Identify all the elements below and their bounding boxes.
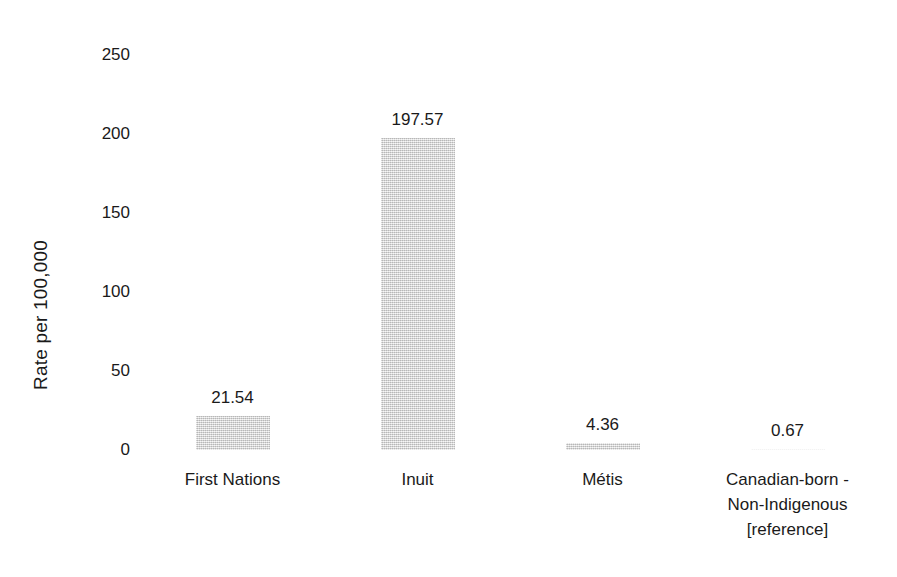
bar-group: 197.57Inuit <box>325 0 510 577</box>
x-axis-category-label-line: First Nations <box>128 467 338 492</box>
plot-area: 21.54First Nations197.57Inuit4.36Métis0.… <box>140 0 880 577</box>
bar-group: 4.36Métis <box>510 0 695 577</box>
bar-value-label: 0.67 <box>771 421 804 441</box>
x-axis-category-label-line: Métis <box>498 467 708 492</box>
x-axis-category-label: Métis <box>498 467 708 492</box>
y-axis-tick-label: 100 <box>60 282 130 302</box>
x-axis-category-label: Inuit <box>313 467 523 492</box>
x-axis-category-label-line: Canadian-born - <box>683 467 893 492</box>
y-axis-tick-label: 250 <box>60 45 130 65</box>
y-axis-tick-label: 50 <box>60 361 130 381</box>
x-axis-category-label-line: Non-Indigenous <box>683 492 893 517</box>
bar-value-label: 4.36 <box>586 415 619 435</box>
y-axis-tick-label: 150 <box>60 203 130 223</box>
y-axis-tick-labels: 050100150200250 <box>60 0 130 577</box>
x-axis-category-label-line: [reference] <box>683 517 893 542</box>
bar[interactable] <box>196 416 270 450</box>
y-axis-tick-label: 200 <box>60 124 130 144</box>
bar-value-label: 197.57 <box>392 110 444 130</box>
bar[interactable] <box>566 443 640 450</box>
bar[interactable] <box>751 449 825 450</box>
x-axis-category-label: First Nations <box>128 467 338 492</box>
x-axis-category-label: Canadian-born -Non-Indigenous[reference] <box>683 467 893 542</box>
y-axis-tick-label: 0 <box>60 440 130 460</box>
bar-value-label: 21.54 <box>211 388 254 408</box>
bar-group: 21.54First Nations <box>140 0 325 577</box>
bar-group: 0.67Canadian-born -Non-Indigenous[refere… <box>695 0 880 577</box>
bar-chart: Rate per 100,000 050100150200250 21.54Fi… <box>0 0 897 577</box>
x-axis-category-label-line: Inuit <box>313 467 523 492</box>
bar[interactable] <box>381 138 455 450</box>
